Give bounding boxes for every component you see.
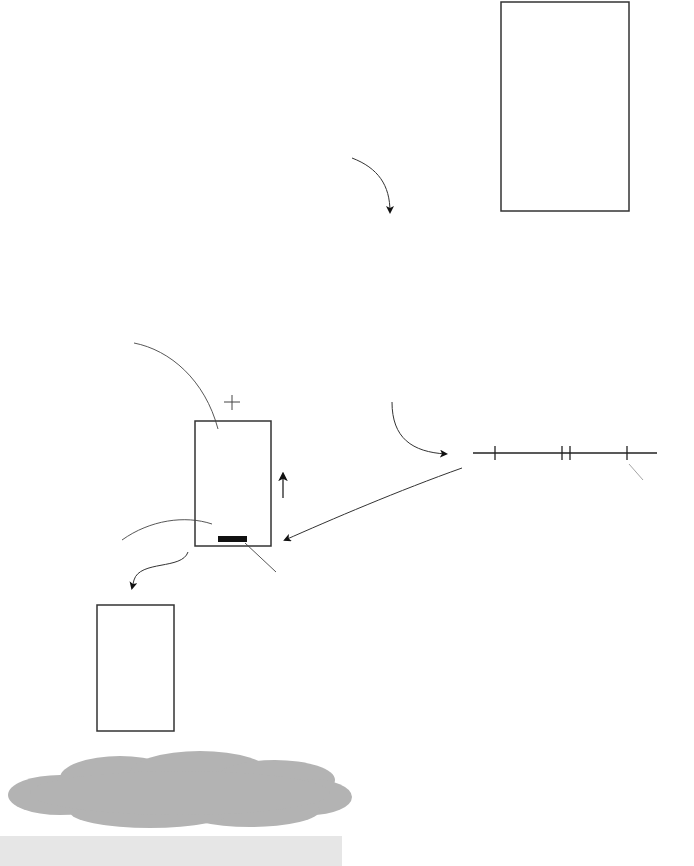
electrophoresis-gel <box>195 395 271 546</box>
arrow-title-to-dna <box>352 158 390 212</box>
result-fingerprint-gel <box>97 605 174 731</box>
arrow-dna-to-fragments <box>392 402 446 454</box>
pointer-small-fragments <box>134 343 218 429</box>
top-fingerprint-gel <box>501 2 629 211</box>
questions-panel <box>0 836 342 866</box>
arrow-fragments-to-gel <box>285 468 462 540</box>
pointer-start-fragments <box>245 543 276 572</box>
arrow-gel-to-fingerprint <box>132 552 188 588</box>
pointer-large-fragments <box>122 520 212 540</box>
dna-strand-with-cuts <box>473 446 657 480</box>
fact-cloud-shape <box>8 751 352 828</box>
